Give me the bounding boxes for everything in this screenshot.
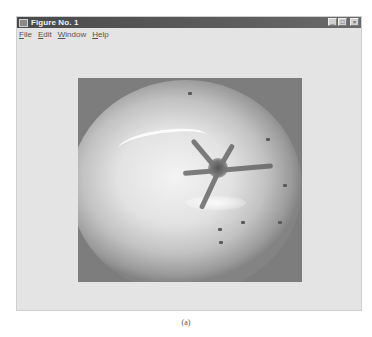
menu-window-label: indow [65, 30, 86, 39]
window-title: Figure No. 1 [31, 17, 78, 28]
menu-bar: File Edit Window Help [17, 29, 361, 41]
surface-speck [278, 221, 282, 224]
stem-calyx [208, 158, 228, 178]
title-bar[interactable]: Figure No. 1 _ □ × [17, 17, 361, 28]
menu-edit-label: dit [43, 30, 51, 39]
surface-speck [219, 241, 223, 244]
menu-file[interactable]: File [19, 29, 32, 41]
menu-file-label: ile [24, 30, 32, 39]
tomato-image [78, 78, 302, 282]
close-icon: × [353, 19, 357, 25]
maximize-icon: □ [341, 19, 345, 25]
menu-window[interactable]: Window [58, 29, 86, 41]
minimize-icon: _ [331, 19, 334, 25]
surface-speck [188, 92, 192, 95]
menu-help-label: elp [98, 30, 109, 39]
close-button[interactable]: × [350, 18, 359, 26]
specular-highlight-lower [186, 196, 246, 210]
figure-window: Figure No. 1 _ □ × File Edit Window Help [16, 16, 362, 311]
menu-edit[interactable]: Edit [38, 29, 52, 41]
surface-speck [283, 184, 287, 187]
surface-speck [241, 221, 245, 224]
surface-speck [218, 228, 222, 231]
figure-caption: (a) [0, 318, 372, 327]
maximize-button[interactable]: □ [338, 18, 347, 26]
minimize-button[interactable]: _ [328, 18, 337, 26]
surface-speck [266, 138, 270, 141]
window-controls: _ □ × [328, 18, 359, 26]
tomato-body [78, 80, 302, 282]
figure-app-icon [19, 19, 28, 27]
menu-help[interactable]: Help [92, 29, 108, 41]
